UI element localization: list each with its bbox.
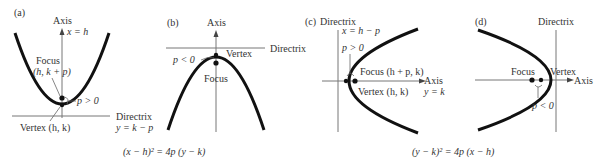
panel-d-p-brace [535,85,542,87]
panel-a-focus-coords: (h, k + p) [33,66,72,78]
panel-c-tag: (c) [305,16,316,28]
panel-b-focus-point [213,60,218,65]
panel-c-focus-label: Focus (h + p, k) [360,66,424,78]
panel-c-focus-point [352,78,357,83]
panel-c: (c) Directrix x = h − p Axis y = k p > 0… [305,16,445,133]
parabola-diagram: (a) Axis x = h Directrix y = k − p Focus… [0,0,599,165]
panel-d-focus-point [529,77,534,82]
panel-a-vertex-point [60,103,64,107]
panel-d-directrix-label: Directrix [538,16,574,27]
panel-c-axis-label: Axis [424,75,443,86]
panel-c-vertex-point [344,79,348,83]
panel-d-axis-arrow-icon [567,78,574,83]
panel-b-vertex-point [214,53,218,57]
equation-vertical: (x − h)² = 4p (y − k) [123,146,206,158]
panel-d-focus-label: Focus [511,66,535,77]
panel-b: (b) Axis Directrix Vertex p < 0 Focus [166,17,306,132]
panel-b-p-label: p < 0 [172,54,195,65]
panel-a-axis-eq: x = h [66,26,88,37]
panel-d-axis-label: Axis [574,75,593,86]
equation-horizontal: (y − k)² = 4p (x − h) [412,146,495,158]
panel-b-vertex-label: Vertex [226,48,252,59]
panel-a-focus-point [59,95,64,100]
panel-a-vertex-label: Vertex (h, k) [20,122,70,134]
panel-b-axis-arrow-icon [214,30,219,37]
panel-d-tag: (d) [475,16,487,28]
panel-a-p-label: p > 0 [76,95,99,106]
panel-b-directrix-label: Directrix [270,43,306,54]
panel-a-vertex-leader [50,107,60,121]
panel-a-focus-label: Focus [36,55,60,66]
panel-b-axis-label: Axis [207,17,226,28]
panel-a-directrix-eq: y = k − p [115,122,153,133]
panel-c-vertex-label: Vertex (h, k) [358,86,408,98]
panel-a-directrix-label: Directrix [116,111,152,122]
panel-d-p-label: p < 0 [531,100,554,111]
panel-d: (d) Directrix Axis Focus Vertex p < 0 [475,16,593,132]
panel-c-axis-eq: y = k [423,86,445,97]
panel-c-directrix-eq: x = h − p [341,25,380,36]
panel-a-axis-label: Axis [53,15,72,26]
panel-a-tag: (a) [14,7,25,19]
panel-a-focus-leader [52,78,60,96]
panel-d-vertex-label: Vertex [550,66,576,77]
panel-a: (a) Axis x = h Directrix y = k − p Focus… [12,7,153,134]
panel-b-focus-label: Focus [204,73,228,84]
panel-d-vertex-point [539,78,543,82]
panel-b-tag: (b) [167,17,179,29]
panel-a-axis-arrow-icon [60,28,65,35]
panel-c-p-label: p > 0 [341,42,364,53]
